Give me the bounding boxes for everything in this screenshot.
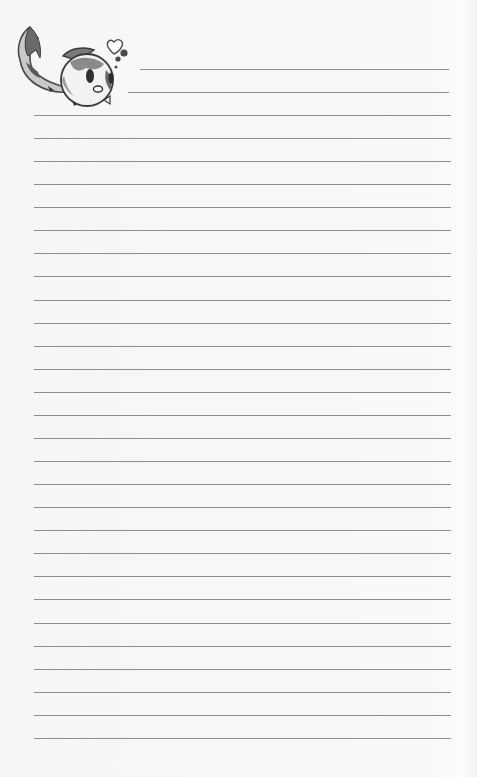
ruled-line	[34, 599, 451, 600]
ruled-line	[34, 553, 451, 554]
ruled-line	[34, 392, 451, 393]
ruled-line-header	[128, 92, 449, 93]
ruled-line	[34, 253, 451, 254]
ruled-line	[34, 715, 451, 716]
ruled-line	[34, 230, 451, 231]
ruled-line	[34, 323, 451, 324]
ruled-line	[34, 415, 451, 416]
ruled-line	[34, 369, 451, 370]
ruled-line	[34, 507, 451, 508]
ruled-line	[34, 530, 451, 531]
ruled-line	[34, 138, 451, 139]
ruled-line	[34, 161, 451, 162]
ruled-line	[34, 484, 451, 485]
ruled-line-header	[140, 69, 449, 70]
heart-icon	[107, 40, 122, 54]
fish-eye-right	[108, 73, 113, 84]
ruled-line	[34, 669, 451, 670]
ruled-line	[34, 184, 451, 185]
ruled-line	[34, 115, 451, 116]
ruled-line	[34, 438, 451, 439]
fish-eye-left	[86, 69, 94, 83]
ruled-line	[34, 461, 451, 462]
koi-fish-mascot-icon	[8, 20, 138, 110]
ruled-line	[34, 576, 451, 577]
ruled-line	[34, 738, 451, 739]
ruled-line	[34, 692, 451, 693]
ruled-line	[34, 207, 451, 208]
ruled-line	[34, 346, 451, 347]
ruled-line	[34, 623, 451, 624]
ruled-line	[34, 300, 451, 301]
ruled-line	[34, 646, 451, 647]
fish-mouth	[94, 86, 103, 92]
ruled-line	[34, 276, 451, 277]
notepaper	[0, 0, 477, 777]
